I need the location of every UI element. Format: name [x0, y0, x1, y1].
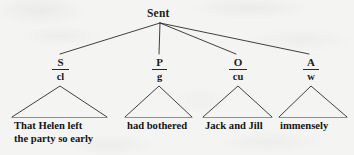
- edge-root-to-predicator: [159, 23, 160, 54]
- edge-root-to-subject: [60, 23, 160, 54]
- function-label-adverbial: A: [303, 57, 319, 69]
- fraction-bar-subject: [52, 69, 69, 70]
- leaf-text-predicator: had bothered: [127, 120, 187, 133]
- triangle-adverbial: [279, 86, 347, 117]
- leaf-line: Jack and Jill: [205, 120, 263, 133]
- leaf-line: That Helen left: [14, 120, 93, 133]
- fraction-bar-adverbial: [303, 69, 319, 70]
- leaf-text-subject: That Helen left the party so early: [14, 120, 93, 145]
- edge-root-to-adverbial: [160, 23, 309, 54]
- node-label-subject: S cl: [52, 57, 69, 82]
- form-label-object: cu: [229, 71, 247, 82]
- leaf-text-object: Jack and Jill: [205, 120, 263, 133]
- triangle-predicator: [125, 86, 192, 117]
- node-label-object: O cu: [229, 57, 247, 82]
- function-label-predicator: P: [152, 57, 167, 69]
- node-label-adverbial: A w: [303, 57, 319, 82]
- node-label-predicator: P g: [152, 57, 167, 82]
- triangle-subject: [12, 86, 107, 117]
- leaf-line: had bothered: [127, 120, 187, 133]
- function-label-subject: S: [52, 57, 69, 69]
- fraction-bar-predicator: [152, 69, 167, 70]
- sentence-diagram: Sent S cl P g O cu A w That Helen left t…: [0, 0, 354, 155]
- form-label-subject: cl: [52, 71, 69, 82]
- leaf-text-adverbial: immensely: [280, 120, 328, 133]
- function-label-object: O: [229, 57, 247, 69]
- leaf-line: the party so early: [14, 133, 93, 146]
- root-node-label: Sent: [147, 7, 170, 19]
- form-label-adverbial: w: [303, 71, 319, 82]
- form-label-predicator: g: [152, 71, 167, 82]
- fraction-bar-object: [229, 69, 247, 70]
- edge-root-to-object: [160, 23, 236, 54]
- triangle-object: [203, 86, 272, 117]
- leaf-line: immensely: [280, 120, 328, 133]
